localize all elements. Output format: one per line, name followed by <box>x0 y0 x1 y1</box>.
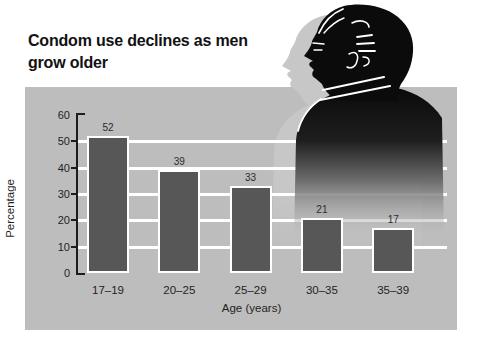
y-tick-mark <box>71 167 77 169</box>
y-tick-label: 40 <box>34 161 70 175</box>
y-tick-label: 10 <box>34 240 70 254</box>
y-axis-title: Percentage <box>4 179 16 238</box>
bar-value-label: 21 <box>301 204 343 216</box>
y-axis-title-wrap: Percentage <box>1 87 19 330</box>
plot-area: 01020304050605217–193920–253325–292130–3… <box>25 87 457 330</box>
bar-value-label: 39 <box>158 156 200 168</box>
y-tick-mark <box>71 193 77 195</box>
bar-value-label: 33 <box>230 172 272 184</box>
y-tick-label: 20 <box>34 213 70 227</box>
bar <box>230 186 272 273</box>
figure-root: Condom use declines as men grow older <box>0 0 480 345</box>
x-tick-label: 25–29 <box>215 283 287 297</box>
bar <box>87 136 129 273</box>
y-tick-label: 50 <box>34 134 70 148</box>
x-tick-label: 35–39 <box>357 283 429 297</box>
bar <box>301 218 343 273</box>
y-tick-mark <box>71 140 77 142</box>
y-tick-mark <box>71 246 77 248</box>
bar <box>158 170 200 273</box>
y-tick-mark <box>71 219 77 221</box>
y-tick-label: 30 <box>34 187 70 201</box>
x-tick-label: 17–19 <box>72 283 144 297</box>
x-tick-label: 20–25 <box>143 283 215 297</box>
bar <box>372 228 414 273</box>
bar-value-label: 52 <box>87 122 129 134</box>
y-tick-label: 0 <box>34 266 70 280</box>
bar-value-label: 17 <box>372 214 414 226</box>
x-tick-label: 30–35 <box>286 283 358 297</box>
x-axis-title: Age (years) <box>88 302 415 314</box>
y-tick-label: 60 <box>34 108 70 122</box>
y-axis-bottom-bracket <box>76 273 85 275</box>
chart-title: Condom use declines as men grow older <box>28 30 253 74</box>
y-axis-top-bracket <box>76 113 85 115</box>
